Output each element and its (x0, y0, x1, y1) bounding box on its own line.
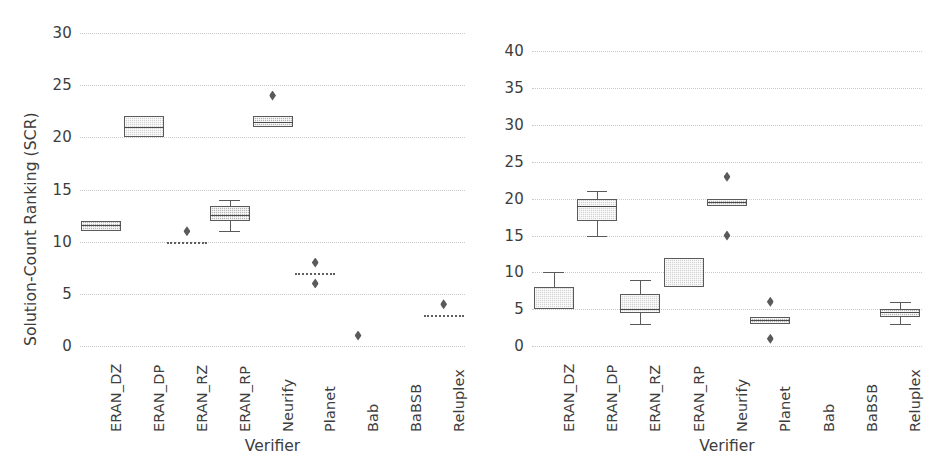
x-tick-label: ERAN_DP (604, 365, 620, 432)
y-tick-label: 0 (514, 337, 524, 355)
y-tick-label: 5 (62, 285, 72, 303)
x-tick-label: ERAN_RP (691, 366, 707, 432)
x-tick-label: Planet (322, 386, 338, 432)
whisker-upper (900, 302, 901, 309)
y-tick-label: 10 (53, 233, 73, 251)
x-tick-label: Reluplex (451, 369, 467, 432)
whisker-cap-lower (890, 324, 911, 325)
x-tick-label: ERAN_DZ (561, 364, 577, 432)
y-axis-label-left: Solution-Count Ranking (SCR) (22, 112, 40, 346)
x-tick-label: Planet (777, 386, 793, 432)
x-tick-label: Neurify (734, 379, 750, 432)
y-tick-label: 35 (505, 79, 525, 97)
x-tick-label: BaBSB (864, 384, 880, 432)
y-tick-label: 20 (53, 128, 73, 146)
y-tick-label: 25 (53, 76, 73, 94)
left-plot-area (80, 33, 465, 346)
boxplot-figure: Solution-Count Ranking (SCR) 05101520253… (0, 0, 951, 465)
y-tick-label: 15 (505, 227, 525, 245)
gridline (80, 346, 465, 347)
gridline (532, 346, 922, 347)
boxplot-reluplex (532, 22, 922, 346)
whisker-lower (900, 317, 901, 324)
y-tick-label: 5 (514, 300, 524, 318)
y-tick-label: 10 (505, 263, 525, 281)
x-tick-label: ERAN_RZ (647, 365, 663, 432)
y-tick-label: 40 (505, 42, 525, 60)
x-tick-label: Reluplex (907, 369, 923, 432)
x-tick-label: ERAN_RZ (194, 365, 210, 432)
y-tick-label: 25 (505, 153, 525, 171)
outlier-marker (440, 299, 447, 309)
x-tick-label: Neurify (280, 379, 296, 432)
x-axis-label-right: Verifier (532, 437, 922, 455)
y-tick-label: 20 (505, 190, 525, 208)
x-axis-label-left: Verifier (80, 437, 465, 455)
box-median-line (880, 312, 920, 313)
y-tick-label: 0 (62, 337, 72, 355)
x-tick-label: Bab (821, 404, 837, 432)
x-tick-label: Bab (365, 404, 381, 432)
left-chart-panel: Solution-Count Ranking (SCR) 05101520253… (0, 0, 475, 465)
whisker-cap-upper (890, 302, 911, 303)
x-tick-label: ERAN_RP (237, 366, 253, 432)
boxplot-reluplex (80, 33, 465, 346)
box-degenerate-line (424, 315, 464, 317)
right-plot-area (532, 22, 922, 346)
right-chart-panel: 0510152025303540 ERAN_DZERAN_DPERAN_RZER… (475, 0, 951, 465)
y-tick-label: 15 (53, 181, 73, 199)
x-tick-label: ERAN_DZ (108, 364, 124, 432)
y-tick-label: 30 (505, 116, 525, 134)
x-tick-label: BaBSB (408, 384, 424, 432)
y-tick-label: 30 (53, 24, 73, 42)
x-tick-label: ERAN_DP (151, 365, 167, 432)
